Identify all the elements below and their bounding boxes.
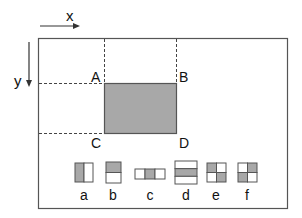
- corner-label-b: B: [179, 69, 188, 85]
- pattern-cell: [175, 169, 197, 177]
- pattern-cell: [106, 173, 121, 184]
- pattern-cell: [106, 162, 121, 173]
- pattern-c: c: [135, 169, 165, 203]
- x-axis-arrow: [40, 23, 80, 29]
- pattern-cell: [248, 173, 258, 183]
- pattern-cell: [207, 173, 217, 183]
- pattern-cell: [238, 163, 248, 173]
- corner-label-d: D: [179, 135, 189, 151]
- pattern-cell: [155, 169, 165, 179]
- pattern-cell: [207, 163, 217, 173]
- pattern-cell: [238, 173, 248, 183]
- pattern-label-a: a: [80, 187, 88, 203]
- pattern-label-d: d: [182, 187, 190, 203]
- pattern-cell: [75, 163, 84, 182]
- pattern-cell: [145, 169, 155, 179]
- corner-label-a: A: [91, 69, 101, 85]
- pattern-label-b: b: [109, 187, 117, 203]
- y-axis-label: y: [14, 72, 22, 89]
- pattern-f: f: [238, 163, 257, 203]
- pattern-cell: [217, 163, 227, 173]
- pattern-cell: [248, 163, 258, 173]
- pattern-label-f: f: [245, 187, 249, 203]
- region-rectangle: [105, 84, 177, 134]
- pattern-d: d: [175, 161, 197, 203]
- pattern-e: e: [207, 163, 226, 203]
- pattern-label-c: c: [147, 187, 154, 203]
- diagram: x y A B C D abcdef: [0, 0, 302, 218]
- y-axis-arrow: [26, 42, 32, 87]
- pattern-legend: abcdef: [75, 161, 257, 203]
- pattern-cell: [175, 161, 197, 169]
- x-axis-label: x: [66, 7, 74, 24]
- corner-label-c: C: [91, 135, 101, 151]
- pattern-cell: [175, 176, 197, 184]
- pattern-a: a: [75, 163, 93, 203]
- pattern-b: b: [106, 162, 121, 203]
- pattern-label-e: e: [212, 187, 220, 203]
- pattern-cell: [135, 169, 145, 179]
- pattern-cell: [217, 173, 227, 183]
- pattern-cell: [84, 163, 93, 182]
